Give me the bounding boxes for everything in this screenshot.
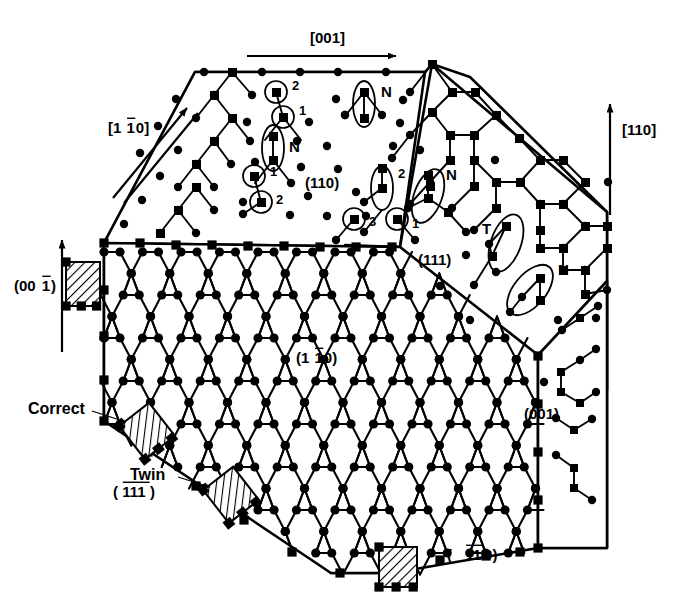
crystal-diagram-canvas: 21N12N231NTN [001][110][110](001)(110)(1… [0,0,678,601]
crystal-figure: 21N12N231NTN [001][110][110](001)(110)(1… [0,0,678,601]
honeycomb-atom [234,376,243,385]
step-corner-atom [374,582,383,591]
edge-atom-square [335,568,344,577]
honeycomb-atom [319,527,328,536]
honeycomb-atom [289,462,298,471]
honeycomb-atom [281,355,290,364]
honeycomb-atom [396,527,405,536]
honeycomb-atom [512,355,521,364]
honeycomb-atom [311,462,320,471]
edge-atom-square [533,447,542,456]
honeycomb-atom [377,484,386,493]
honeycomb-atom [504,376,513,385]
honeycomb-atom [396,269,405,278]
honeycomb-atom [300,484,309,493]
honeycomb-atom [319,441,328,450]
edge-atom-square [533,351,542,360]
honeycomb-atom [212,290,221,299]
honeycomb-atom [231,419,240,428]
honeycomb-atom [473,527,482,536]
svg-text:[001]: [001] [310,29,345,46]
edge-atom-square [243,241,252,250]
honeycomb-atom [212,462,221,471]
honeycomb-atom [523,505,532,514]
edge-atom-square [515,547,524,556]
marker-label: N [558,261,569,278]
honeycomb-atom [427,376,436,385]
honeycomb-atom [135,290,144,299]
honeycomb-atom [196,462,205,471]
honeycomb-atom [184,398,193,407]
honeycomb-atom [127,355,136,364]
marker-label: T [482,220,491,237]
edge-atom-square [171,240,180,249]
honeycomb-atom [292,333,301,342]
honeycomb-atom [138,333,147,342]
honeycomb-atom [531,484,540,493]
honeycomb-atom [330,333,339,342]
honeycomb-atom [388,462,397,471]
honeycomb-atom [327,548,336,557]
honeycomb-atom [415,398,424,407]
step-corner-atom [374,542,383,551]
marker-label: 2 [292,78,299,93]
honeycomb-atom [119,376,128,385]
honeycomb-atom [407,333,416,342]
honeycomb-atom [350,290,359,299]
honeycomb-atom [388,376,397,385]
step-bottom [379,547,417,587]
svg-text:11: 11 [466,546,482,563]
direction-label-dir-110: [110] [622,121,656,138]
honeycomb-atom [311,376,320,385]
facet-label-facet-1b10: (110) [296,348,337,366]
honeycomb-atom [446,505,455,514]
honeycomb-atom [242,355,251,364]
honeycomb-atom [176,419,185,428]
honeycomb-atom [327,462,336,471]
honeycomb-atom [154,333,163,342]
honeycomb-atom [358,527,367,536]
honeycomb-atom [500,333,509,342]
honeycomb-atom [366,462,375,471]
direction-label-dir-00b1: (001) [14,276,56,294]
honeycomb-atom [107,312,116,321]
honeycomb-atom [176,333,185,342]
honeycomb-atom [473,441,482,450]
honeycomb-atom [504,462,513,471]
facet-label-facet-110: (110) [305,174,339,191]
honeycomb-atom [308,505,317,514]
honeycomb-atom [154,247,163,256]
honeycomb-atom [157,290,166,299]
honeycomb-atom [311,290,320,299]
honeycomb-atom [250,376,259,385]
honeycomb-atom [350,548,359,557]
honeycomb-atom [415,484,424,493]
honeycomb-atom [484,333,493,342]
honeycomb-atom [196,290,205,299]
svg-text:(00: (00 [14,277,36,294]
honeycomb-atom [338,398,347,407]
honeycomb-atom [338,312,347,321]
honeycomb-atom [196,376,205,385]
honeycomb-atom [454,398,463,407]
svg-text:(: ( [113,483,118,500]
honeycomb-atom [157,376,166,385]
honeycomb-atom [454,484,463,493]
marker-label: 1 [299,103,306,118]
honeycomb-atom [492,398,501,407]
honeycomb-atom [300,312,309,321]
edge-atom-square [99,416,108,425]
honeycomb-atom [415,312,424,321]
honeycomb-atom [311,548,320,557]
honeycomb-atom [377,312,386,321]
honeycomb-atom [504,548,513,557]
honeycomb-atom [223,312,232,321]
honeycomb-atom [327,290,336,299]
honeycomb-atom [215,333,224,342]
honeycomb-atom [204,269,213,278]
honeycomb-atom [366,548,375,557]
honeycomb-atom [492,484,501,493]
honeycomb-atom [281,441,290,450]
honeycomb-atom [107,398,116,407]
callout-twin: Twin [130,466,165,483]
